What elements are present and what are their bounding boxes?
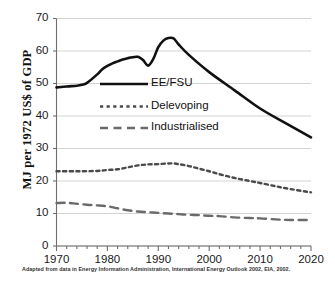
x-tick-label: 1970 [37,253,77,265]
x-tick-label: 1990 [138,253,178,265]
x-tick-label: 2010 [240,253,280,265]
legend-label-2: Industrialised [151,120,219,132]
y-tick-label: 40 [23,109,49,121]
y-tick-label: 30 [23,141,49,153]
line-chart-canvas [0,0,335,281]
series-line-1 [57,163,312,192]
figure-caption: Adapted from data in Energy Information … [22,266,322,272]
y-tick-label: 70 [23,11,49,23]
x-tick-label: 2000 [189,253,229,265]
legend-label-0: EE/FSU [151,76,193,88]
y-tick-label: 50 [23,76,49,88]
y-tick-label: 0 [23,239,49,251]
y-tick-label: 10 [23,206,49,218]
tick-marks [53,19,311,252]
axes [57,19,312,247]
legend-line-samples [100,84,148,128]
y-tick-label: 20 [23,174,49,186]
chart-figure: MJ per 1972 US$ of GDP 010203040506070 1… [0,0,335,281]
series-line-2 [57,203,312,220]
y-tick-label: 60 [23,44,49,56]
x-tick-label: 1980 [87,253,127,265]
legend-label-1: Delevoping [151,99,209,111]
x-tick-label: 2020 [291,253,331,265]
gridlines [57,19,312,247]
